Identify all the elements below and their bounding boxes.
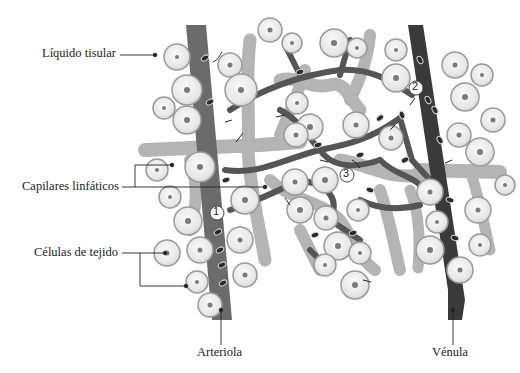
marker-1-number: 1 (213, 205, 219, 217)
marker-2-number: 2 (412, 80, 418, 92)
label-venula: Vénula (432, 345, 468, 360)
label-arteriola: Arteriola (197, 345, 242, 360)
label-celulas-de-tejido: Células de tejido (34, 245, 118, 260)
label-liquido-tisular: Líquido tisular (42, 46, 116, 61)
label-capilares-linfaticos: Capilares linfáticos (22, 179, 119, 194)
marker-3-number: 3 (343, 167, 349, 179)
